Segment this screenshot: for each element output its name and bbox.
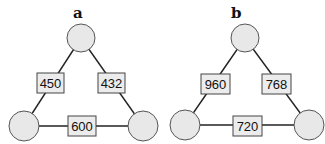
node-bottom-left bbox=[9, 111, 39, 141]
edge-value-right: 432 bbox=[101, 76, 123, 91]
node-bottom-right bbox=[294, 110, 324, 140]
panel-b-label: b bbox=[231, 4, 242, 22]
edge-value-left: 960 bbox=[205, 77, 227, 92]
diagram-canvas: a 450 432 600 b 960 768 720 bbox=[0, 0, 325, 144]
panel-a: a 450 432 600 bbox=[9, 4, 158, 141]
edge-value-right: 768 bbox=[266, 77, 288, 92]
edge-value-bottom: 600 bbox=[71, 119, 93, 134]
node-top bbox=[231, 24, 259, 52]
edge-value-bottom: 720 bbox=[237, 119, 259, 134]
node-bottom-left bbox=[170, 110, 200, 140]
node-bottom-right bbox=[128, 111, 158, 141]
node-top bbox=[67, 24, 95, 52]
edge-value-left: 450 bbox=[40, 76, 62, 91]
panel-b: b 960 768 720 bbox=[170, 4, 324, 140]
panel-a-label: a bbox=[73, 4, 83, 22]
